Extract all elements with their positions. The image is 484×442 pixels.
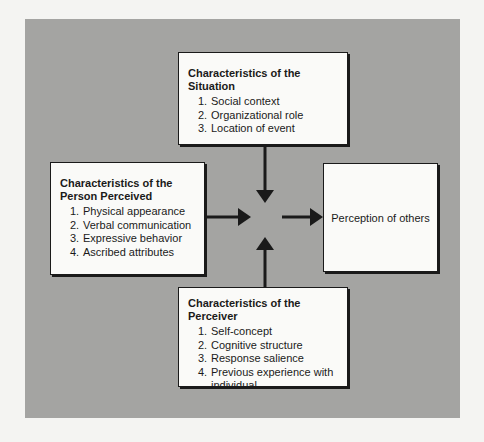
item-text: Response salience <box>211 352 347 366</box>
perceiver-box: Characteristics of the Perceiver 1.Self-… <box>178 287 348 387</box>
list-item: 3.Expressive behavior <box>70 232 204 246</box>
item-text: Physical appearance <box>83 205 204 219</box>
list-item: 1.Self-concept <box>198 325 347 339</box>
item-number: 2. <box>198 339 211 353</box>
list-item: 2.Verbal communication <box>70 219 204 233</box>
item-text: Previous experience with individual <box>211 366 348 393</box>
list-item: 1.Social context <box>198 95 347 109</box>
item-text: Expressive behavior <box>83 232 204 246</box>
item-number: 3. <box>70 232 83 246</box>
situation-list: 1.Social context 2.Organizational role 3… <box>188 95 347 136</box>
title-line-1: Characteristics of the <box>60 177 204 190</box>
item-text: Ascribed attributes <box>83 246 204 260</box>
list-item: 4.Ascribed attributes <box>70 246 204 260</box>
situation-box: Characteristics of the Situation 1.Socia… <box>178 52 348 145</box>
item-text: Social context <box>211 95 347 109</box>
perception-of-others-box: Perception of others <box>323 163 438 272</box>
item-number: 2. <box>198 109 211 123</box>
item-number: 1. <box>198 325 211 339</box>
list-item: 2.Organizational role <box>198 109 347 123</box>
title-line-2: Person Perceived <box>60 190 204 203</box>
item-number: 1. <box>70 205 83 219</box>
arrow-down-head <box>256 190 274 203</box>
arrow-up-head <box>256 237 274 250</box>
item-number: 3. <box>198 352 211 366</box>
list-item: 3.Response salience <box>198 352 347 366</box>
item-number: 2. <box>70 219 83 233</box>
list-item: 2.Cognitive structure <box>198 339 347 353</box>
perceiver-list: 1.Self-concept 2.Cognitive structure 3.R… <box>188 325 347 393</box>
item-number: 3. <box>198 122 211 136</box>
situation-title: Characteristics of the Situation <box>188 67 347 93</box>
list-item: 4.Previous experience with individual <box>198 366 348 393</box>
list-item: 1.Physical appearance <box>70 205 204 219</box>
item-number: 4. <box>198 366 211 393</box>
item-text: Verbal communication <box>83 219 204 233</box>
item-number: 1. <box>198 95 211 109</box>
item-text: Location of event <box>211 122 347 136</box>
list-item: 3.Location of event <box>198 122 347 136</box>
person-perceived-box: Characteristics of the Person Perceived … <box>50 162 205 275</box>
person-perceived-list: 1.Physical appearance 2.Verbal communica… <box>60 205 204 259</box>
arrow-right-head-2 <box>310 208 323 226</box>
arrow-right-head-1 <box>238 208 251 226</box>
item-text: Self-concept <box>211 325 347 339</box>
item-text: Organizational role <box>211 109 347 123</box>
item-text: Cognitive structure <box>211 339 347 353</box>
perceiver-title: Characteristics of the Perceiver <box>188 297 347 323</box>
outcome-label: Perception of others <box>331 212 429 224</box>
item-number: 4. <box>70 246 83 260</box>
person-perceived-title: Characteristics of the Person Perceived <box>60 177 204 203</box>
